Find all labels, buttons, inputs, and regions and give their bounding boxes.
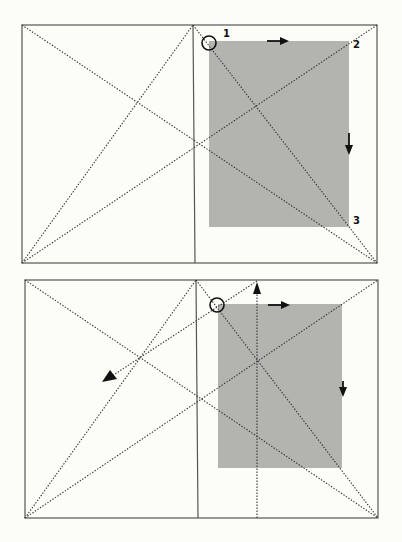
canon-of-page-construction-diagram: 1 2 3: [0, 0, 402, 542]
spine-line: [193, 25, 195, 263]
spine-line: [196, 280, 198, 518]
text-block: [218, 304, 342, 468]
label-1: 1: [223, 28, 230, 39]
top-spread-diagram: 1 2 3: [22, 25, 377, 263]
left-page-diagonal: [22, 25, 193, 263]
left-page-diagonal: [25, 280, 196, 518]
bottom-spread-diagram: [25, 280, 378, 518]
label-3: 3: [353, 215, 360, 226]
label-2: 2: [353, 39, 360, 50]
